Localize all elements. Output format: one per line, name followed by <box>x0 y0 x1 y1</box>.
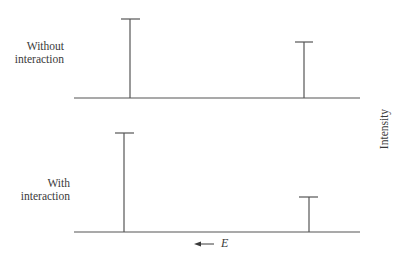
spectrum-diagram <box>0 0 406 260</box>
